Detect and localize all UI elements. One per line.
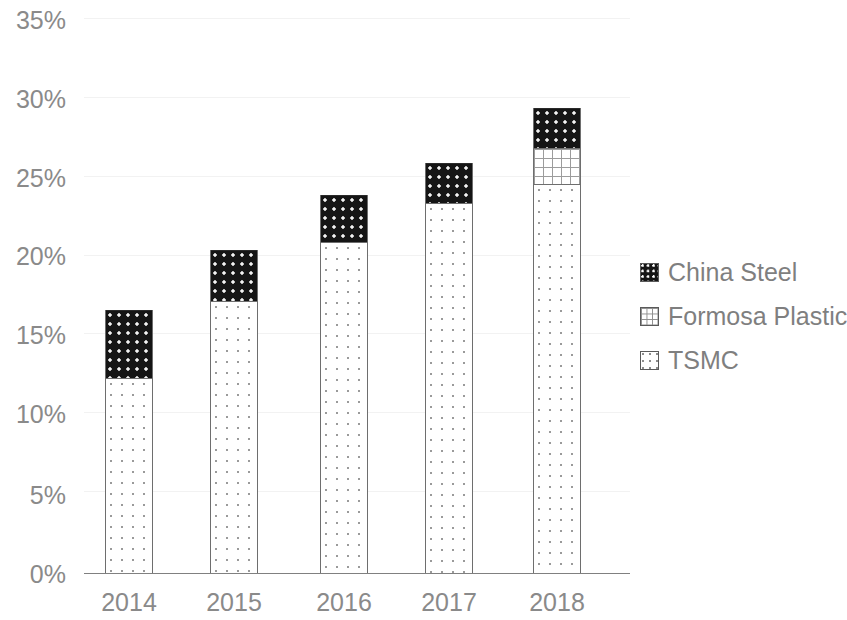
bar-segment-china-steel[interactable] bbox=[426, 163, 472, 203]
legend-label-china-steel: China Steel bbox=[668, 260, 797, 285]
legend-swatch-tsmc-icon bbox=[640, 351, 659, 370]
plot-area: 2014 2015 2016 2017 2018 bbox=[70, 0, 630, 620]
y-axis-tick-0: 0% bbox=[0, 560, 66, 589]
bar-2014[interactable] bbox=[105, 310, 153, 573]
legend-item-china-steel[interactable]: China Steel bbox=[640, 250, 844, 294]
bar-segment-tsmc[interactable] bbox=[211, 301, 257, 573]
y-axis-tick-10: 10% bbox=[0, 400, 66, 429]
x-axis-tick-2018: 2018 bbox=[517, 588, 597, 617]
y-axis-tick-5: 5% bbox=[0, 481, 66, 510]
bar-segment-tsmc[interactable] bbox=[321, 242, 367, 573]
legend-swatch-formosa-plastic-icon bbox=[640, 307, 659, 326]
x-axis-tick-2016: 2016 bbox=[304, 588, 384, 617]
bar-segment-china-steel[interactable] bbox=[106, 310, 152, 378]
bar-segment-tsmc[interactable] bbox=[534, 184, 580, 573]
x-axis-tick-2014: 2014 bbox=[89, 588, 169, 617]
legend-swatch-china-steel-icon bbox=[640, 263, 659, 282]
y-axis: 35% 30% 25% 20% 15% 10% 5% 0% bbox=[0, 0, 70, 620]
axis-baseline bbox=[84, 573, 630, 574]
bar-segment-tsmc[interactable] bbox=[106, 378, 152, 573]
bar-segment-china-steel[interactable] bbox=[321, 195, 367, 242]
y-axis-tick-15: 15% bbox=[0, 321, 66, 350]
legend: China Steel Formosa Plastic TSMC bbox=[640, 250, 844, 382]
bar-segment-china-steel[interactable] bbox=[211, 250, 257, 301]
bar-segment-china-steel[interactable] bbox=[534, 108, 580, 148]
x-axis-tick-2017: 2017 bbox=[409, 588, 489, 617]
gridline-35 bbox=[84, 18, 630, 19]
bar-2016[interactable] bbox=[320, 195, 368, 573]
bar-segment-tsmc[interactable] bbox=[426, 203, 472, 573]
bar-2017[interactable] bbox=[425, 163, 473, 573]
x-axis-tick-2015: 2015 bbox=[194, 588, 274, 617]
gridline-30 bbox=[84, 97, 630, 98]
bar-segment-formosa-plastic[interactable] bbox=[534, 148, 580, 184]
legend-item-formosa-plastic[interactable]: Formosa Plastic bbox=[640, 294, 844, 338]
y-axis-tick-25: 25% bbox=[0, 164, 66, 193]
y-axis-tick-30: 30% bbox=[0, 85, 66, 114]
y-axis-tick-35: 35% bbox=[0, 6, 66, 35]
y-axis-tick-20: 20% bbox=[0, 242, 66, 271]
bar-2015[interactable] bbox=[210, 250, 258, 573]
legend-label-tsmc: TSMC bbox=[668, 348, 739, 373]
legend-item-tsmc[interactable]: TSMC bbox=[640, 338, 844, 382]
bar-2018[interactable] bbox=[533, 108, 581, 573]
legend-label-formosa-plastic: Formosa Plastic bbox=[668, 304, 847, 329]
